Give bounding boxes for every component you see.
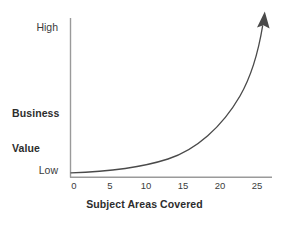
x-axis-title: Subject Areas Covered (0, 199, 289, 211)
y-axis-title-line2: Value (12, 143, 60, 155)
y-axis-high-label: High (8, 22, 58, 34)
chart-figure: High Low Business Value 0 5 10 15 20 25 … (0, 0, 289, 225)
y-axis-title-line1: Business (12, 108, 60, 120)
curve-arrowhead-icon (257, 12, 270, 29)
x-tick-label-15: 15 (169, 181, 197, 192)
x-tick-label-0: 0 (60, 181, 88, 192)
x-tick-label-25: 25 (243, 181, 271, 192)
x-tick-label-10: 10 (132, 181, 160, 192)
y-axis-title: Business Value (12, 84, 60, 178)
x-tick-label-20: 20 (206, 181, 234, 192)
exponential-curve (71, 26, 263, 173)
x-tick-label-5: 5 (96, 181, 124, 192)
